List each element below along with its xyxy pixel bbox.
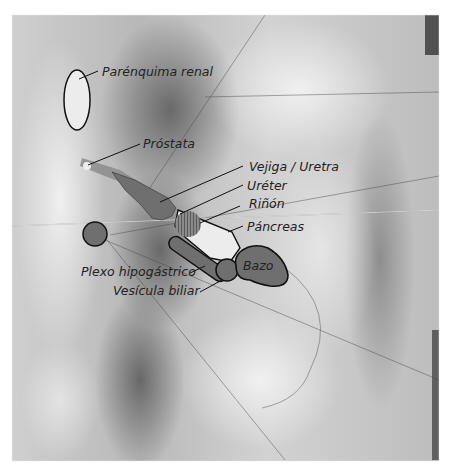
label-parenquima-renal: Parénquima renal [102, 64, 214, 79]
label-ureter: Uréter [247, 178, 288, 193]
zone-prostata [83, 162, 91, 170]
label-vejiga-uretra: Vejiga / Uretra [249, 159, 339, 174]
zone-parenquima-renal [64, 70, 90, 130]
zone-rinon [175, 211, 201, 237]
zone-left-circle [83, 222, 107, 246]
label-bazo: Bazo [243, 258, 274, 273]
label-plexo-hipogastrico: Plexo hipogástrico [81, 264, 196, 279]
label-rinon: Riñón [249, 196, 285, 211]
label-pancreas: Páncreas [247, 219, 304, 234]
label-vesicula-biliar: Vesícula biliar [113, 283, 200, 298]
ear-anatomy-figure: Parénquima renal Próstata Vejiga / Uretr… [0, 0, 450, 473]
ear-photo-diagram: Parénquima renal Próstata Vejiga / Uretr… [0, 0, 450, 473]
label-prostata: Próstata [143, 136, 195, 151]
